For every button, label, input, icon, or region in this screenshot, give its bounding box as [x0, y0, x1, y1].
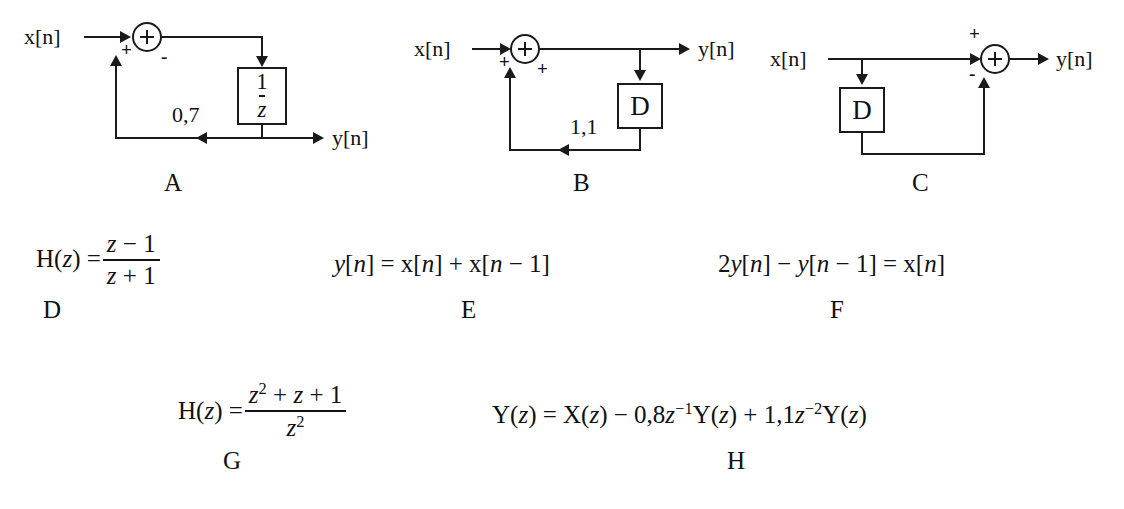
- equation-d: H(z) =z − 1z + 1: [36, 232, 162, 291]
- equation-d-numerator: z − 1: [103, 230, 160, 259]
- diagram-a-sign-minus: -: [161, 47, 167, 66]
- diagram-c-delay-block-label: D: [852, 95, 872, 126]
- equation-g: H(z) =z2 + z + 1z2: [178, 382, 348, 444]
- equation-e-caption: E: [461, 297, 476, 322]
- diagram-c-caption: C: [912, 170, 929, 195]
- equation-d-caption: D: [43, 297, 61, 322]
- diagram-a-delay-block-fraction: 1 z: [256, 70, 268, 122]
- equation-d-fraction: z − 1z + 1: [103, 230, 160, 289]
- diagram-b-gain-label: 1,1: [570, 116, 598, 138]
- figure-canvas: x[n] + - 1 z y[n]: [0, 0, 1124, 509]
- diagram-b-delay-block-label: D: [630, 91, 650, 122]
- diagram-c-input-label: x[n]: [770, 48, 807, 70]
- diagram-c-feedforward-wire: [861, 153, 985, 155]
- diagram-c-output-label: y[n]: [1056, 48, 1093, 70]
- diagram-c-feedforward-arrowhead: [978, 77, 990, 88]
- diagram-a-delay-block: 1 z: [237, 67, 287, 125]
- equation-e: y[n] = x[n] + x[n − 1]: [334, 250, 550, 278]
- diagram-a-output-label: y[n]: [332, 127, 369, 149]
- equation-f: 2y[n] − y[n − 1] = x[n]: [718, 250, 945, 278]
- diagram-a-feedback-arrowhead: [196, 132, 207, 144]
- diagram-b-feedback-arrowhead-up: [504, 67, 516, 78]
- diagram-a-input-wire: [84, 36, 124, 38]
- equation-g-caption: G: [223, 448, 241, 473]
- diagram-b-delay-block: D: [617, 83, 663, 129]
- equation-d-lhs: H(z) =: [36, 245, 101, 272]
- diagram-c-feedforward-riser: [983, 88, 985, 155]
- diagram-b-output-arrowhead: [679, 43, 690, 55]
- diagram-c-sign-minus: -: [969, 64, 975, 83]
- equation-h-caption: H: [727, 448, 745, 473]
- diagram-b-forward-wire: [540, 48, 685, 50]
- diagram-a-feedback-riser: [115, 66, 117, 138]
- diagram-a-sign-plus: +: [121, 40, 132, 59]
- diagram-b-feedback-wire: [509, 149, 641, 151]
- diagram-a-input-label: x[n]: [24, 26, 61, 48]
- diagram-b-tap-arrowhead: [634, 70, 646, 81]
- diagram-a-forward-drop-wire: [261, 36, 263, 58]
- equation-f-caption: F: [830, 297, 844, 322]
- diagram-b-tap-wire: [639, 48, 641, 72]
- equation-g-numerator: z2 + z + 1: [245, 380, 346, 410]
- diagram-c-tap-arrowhead: [856, 74, 868, 85]
- diagram-b-feedback-riser: [509, 78, 511, 151]
- diagram-b-feedback-arrowhead: [558, 144, 569, 156]
- diagram-a-feedback-arrowhead-up: [110, 55, 122, 66]
- diagram-c-block-output-wire: [861, 133, 863, 155]
- diagram-b-caption: B: [573, 170, 590, 195]
- diagram-c-input-wire: [828, 58, 975, 60]
- diagram-c-sign-plus: +: [969, 24, 980, 43]
- diagram-a-caption: A: [164, 170, 182, 195]
- diagram-c-output-arrowhead: [1038, 53, 1049, 65]
- diagram-b-sign-plus-feedback: +: [537, 59, 548, 78]
- diagram-a-output-arrowhead: [313, 132, 324, 144]
- diagram-b-block-output-wire: [639, 129, 641, 151]
- equation-d-denominator: z + 1: [103, 259, 160, 290]
- equation-g-denominator: z2: [245, 410, 346, 442]
- diagram-a-output-bus: [115, 137, 317, 139]
- diagram-b-summing-junction: [510, 34, 540, 64]
- diagram-a-forward-arrowhead: [256, 56, 268, 67]
- diagram-a-forward-wire: [162, 36, 263, 38]
- diagram-b-output-label: y[n]: [698, 38, 735, 60]
- diagram-c-summing-junction: [980, 44, 1010, 74]
- diagram-a-gain-label: 0,7: [172, 104, 200, 126]
- diagram-c-delay-block: D: [839, 87, 885, 133]
- equation-h: Y(z) = X(z) − 0,8z−1Y(z) + 1,1z−2Y(z): [492, 400, 867, 429]
- diagram-a-summing-junction: [132, 22, 162, 52]
- equation-g-fraction: z2 + z + 1z2: [245, 380, 346, 442]
- diagram-b-input-label: x[n]: [414, 38, 451, 60]
- equation-g-lhs: H(z) =: [178, 397, 243, 424]
